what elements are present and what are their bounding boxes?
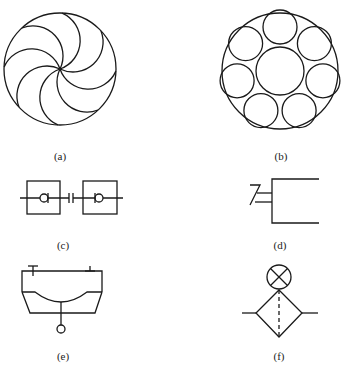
center-circle	[256, 47, 304, 95]
gauge-circle	[57, 325, 65, 333]
open-rectangle	[272, 179, 319, 223]
panel-d-spring-cylinder	[250, 179, 319, 223]
panel-b-circle-packing	[220, 10, 340, 129]
label-c: (c)	[57, 239, 70, 252]
check-ball-right	[95, 194, 103, 202]
label-d: (d)	[274, 239, 287, 252]
curved-surface	[22, 292, 102, 302]
diagram-canvas: (a) (b) (c) (d)	[0, 0, 342, 373]
label-b: (b)	[275, 150, 288, 163]
center-dot	[58, 67, 61, 70]
label-a: (a)	[54, 150, 67, 163]
panel-c-quick-coupling	[20, 181, 123, 214]
panel-f-filter-indicator	[242, 265, 318, 337]
label-f: (f)	[274, 350, 285, 363]
panel-e-tank	[22, 266, 102, 333]
outer-circle	[222, 13, 338, 129]
panel-a-spiral-impeller	[3, 12, 118, 127]
label-e: (e)	[57, 350, 70, 363]
check-ball-left	[40, 194, 48, 202]
satellite-circles	[220, 10, 340, 128]
